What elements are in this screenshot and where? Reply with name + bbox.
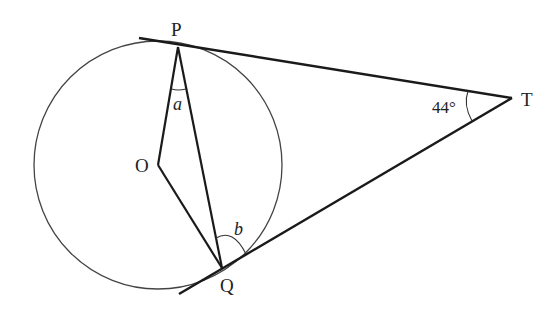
label-O: O <box>135 155 149 176</box>
angle-label-T: 44° <box>432 98 456 117</box>
angle-arc-T <box>466 91 472 121</box>
label-T: T <box>521 89 533 110</box>
label-Q: Q <box>220 275 234 296</box>
angle-label-b: b <box>234 219 243 239</box>
label-P: P <box>171 19 182 40</box>
angle-arc-a <box>172 89 187 90</box>
tangent-line-PT <box>139 38 512 98</box>
circle-tangent-diagram: P O Q T a b 44° <box>0 0 555 321</box>
tangent-line-QT <box>179 98 512 294</box>
chord-PQ <box>178 47 222 268</box>
angle-label-a: a <box>173 94 182 114</box>
